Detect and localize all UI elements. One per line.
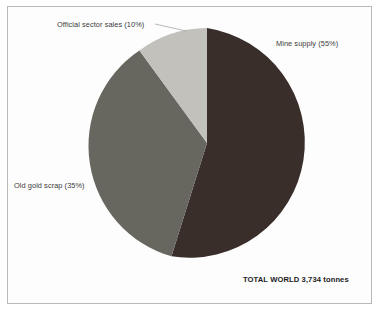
slice-label-old-gold-scrap: Old gold scrap (35%) [14,181,85,191]
leader-line-official-sector-sales [155,24,186,31]
slice-label-mine-supply: Mine supply (55%) [276,39,338,49]
total-world-caption: TOTAL WORLD 3,734 tonnes [243,275,349,284]
slice-label-official-sector-sales: Official sector sales (10%) [57,20,144,30]
pie-chart-figure: Official sector sales (10%) Mine supply … [0,0,381,312]
